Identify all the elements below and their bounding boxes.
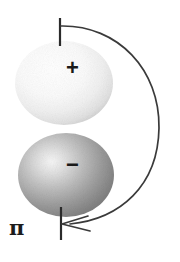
pi-symbol-label: π — [9, 217, 24, 238]
plus-sign-label: + — [66, 57, 79, 79]
upper-lobe — [15, 41, 113, 125]
figure-canvas — [0, 0, 180, 262]
minus-sign-label: − — [66, 154, 79, 176]
orbital-figure: + − π — [0, 0, 180, 262]
